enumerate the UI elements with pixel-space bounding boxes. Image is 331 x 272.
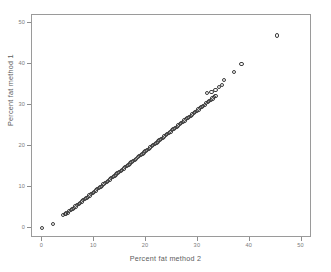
data-point bbox=[40, 226, 44, 230]
data-point bbox=[51, 222, 55, 226]
data-point bbox=[239, 62, 243, 66]
y-axis-title: Percent fat method 1 bbox=[6, 54, 15, 126]
x-axis-title: Percent fat method 2 bbox=[0, 254, 331, 263]
x-tick-label: 10 bbox=[90, 242, 97, 248]
x-tick-mark bbox=[41, 237, 42, 241]
y-tick-label: 40 bbox=[18, 60, 25, 66]
y-tick-mark bbox=[27, 186, 31, 187]
x-tick-mark bbox=[197, 237, 198, 241]
y-tick-label: 30 bbox=[18, 101, 25, 107]
plot-area bbox=[31, 14, 311, 237]
y-tick-label: 10 bbox=[18, 183, 25, 189]
data-point bbox=[222, 78, 226, 82]
y-tick-mark bbox=[27, 145, 31, 146]
y-tick-mark bbox=[27, 22, 31, 23]
data-point bbox=[213, 94, 217, 98]
x-tick-mark bbox=[145, 237, 146, 241]
x-tick-label: 40 bbox=[245, 242, 252, 248]
y-tick-mark bbox=[27, 104, 31, 105]
x-tick-label: 50 bbox=[297, 242, 304, 248]
data-point bbox=[220, 83, 224, 87]
x-tick-mark bbox=[301, 237, 302, 241]
x-tick-mark bbox=[249, 237, 250, 241]
y-tick-mark bbox=[27, 63, 31, 64]
x-tick-label: 20 bbox=[142, 242, 149, 248]
data-point bbox=[232, 70, 236, 74]
y-tick-label: 0 bbox=[22, 224, 25, 230]
y-tick-label: 50 bbox=[18, 19, 25, 25]
data-point bbox=[275, 33, 279, 37]
y-tick-label: 20 bbox=[18, 142, 25, 148]
y-tick-mark bbox=[27, 227, 31, 228]
x-tick-mark bbox=[93, 237, 94, 241]
x-tick-label: 30 bbox=[194, 242, 201, 248]
scatter-plot-figure: 01020304050 01020304050 Percent fat meth… bbox=[0, 0, 331, 272]
data-points-layer bbox=[32, 15, 310, 236]
x-tick-label: 0 bbox=[40, 242, 43, 248]
data-point bbox=[213, 88, 217, 92]
